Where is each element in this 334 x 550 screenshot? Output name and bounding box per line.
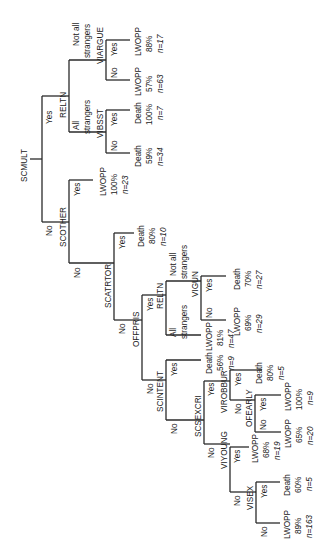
svg-text:59%: 59% [145,148,154,164]
decision-tree: SCMULT SCOTHER RELTN VIARGUE VIBSST SCAT… [0,0,334,550]
node-scmult: SCMULT [20,149,29,182]
leaf: LWOPP 89% n=163 [283,509,314,539]
svg-text:56%: 56% [216,355,225,371]
leaf: LWOPP 100% n=9 [284,381,315,411]
branch-yes: Yes [118,236,127,249]
node-labels: SCMULT SCOTHER RELTN VIARGUE VIBSST SCAT… [20,27,255,510]
svg-text:LWOPP: LWOPP [134,66,143,96]
leaf: Death 80% n=10 [137,225,168,247]
svg-text:n=19: n=19 [273,441,282,460]
branch-no: No [234,403,243,414]
svg-text:88%: 88% [145,36,154,52]
node-reltn-top: RELTN [59,92,68,118]
leaf: Death 60% n=5 [283,474,314,496]
node-reltn-mid: RELTN [156,283,165,309]
node-virobbur: VIROBBUR [220,370,229,413]
leaf: LWOPP 100% n=23 [99,166,130,196]
branch-yes: Yes [170,363,179,376]
svg-text:80%: 80% [266,365,275,381]
svg-text:LWOPP: LWOPP [284,418,293,448]
svg-text:68%: 68% [262,442,271,458]
branch-no: No [233,495,242,506]
leaf: Death 100% n=7 [134,102,165,125]
svg-text:100%: 100% [110,174,119,195]
branch-all-strangers: All [72,121,81,130]
leaf: LWOPP 57% n=63 [134,66,165,96]
leaf: LWOPP 69% n=29 [233,306,264,336]
node-visex: VISEX [246,485,255,510]
svg-text:n=9: n=9 [227,356,236,370]
svg-text:n=9: n=9 [306,391,315,405]
svg-text:n=20: n=20 [306,426,315,445]
svg-text:n=23: n=23 [121,175,130,194]
svg-text:89%: 89% [294,518,303,534]
leaf: Death 70% n=27 [233,268,264,290]
branch-yes: Yes [110,43,119,56]
svg-text:100%: 100% [145,104,154,125]
branch-not-all-strangers: Not all [72,23,81,46]
branch-no: No [118,323,127,334]
svg-text:57%: 57% [145,76,154,92]
svg-text:100%: 100% [295,389,304,410]
branch-yes: Yes [207,383,216,396]
branch-no: No [170,423,179,434]
branch-all-strangers: strangers [83,100,92,134]
svg-text:n=5: n=5 [305,477,314,491]
node-offpris: OFFPRIS [132,311,141,347]
branch-no: No [110,140,119,151]
svg-text:n=47: n=47 [227,329,236,348]
svg-text:Death: Death [283,474,292,496]
branch-yes: Yes [260,485,269,498]
branch-no: No [205,307,214,318]
leaf: LWOPP 88% n=17 [134,26,165,56]
branch-yes: Yes [45,111,54,124]
svg-text:Death: Death [205,352,214,374]
svg-text:n=7: n=7 [156,106,165,120]
svg-text:60%: 60% [294,477,303,493]
branch-all-strangers: strangers [180,305,189,339]
branch-yes: Yes [259,398,268,411]
node-scintent: SCINTENT [156,371,165,412]
svg-text:LWOPP: LWOPP [251,433,260,463]
leaf: Death 59% n=34 [134,145,165,167]
svg-text:Death: Death [134,145,143,167]
svg-text:n=63: n=63 [156,74,165,93]
node-scsexcri: SCSEXCRI [194,395,203,437]
branch-no: No [110,67,119,78]
svg-text:80%: 80% [148,228,157,244]
branch-no: No [207,447,216,458]
svg-text:n=27: n=27 [255,270,264,289]
svg-text:n=29: n=29 [255,314,264,333]
svg-text:Death: Death [134,102,143,124]
leaf: Death 80% n=5 [255,362,286,384]
svg-text:n=5: n=5 [277,366,286,380]
branch-yes: Yes [233,450,242,463]
branch-no: No [260,526,269,537]
svg-text:LWOPP: LWOPP [99,166,108,196]
branch-not-all-strangers: strangers [180,245,189,279]
branch-no: No [45,225,54,236]
svg-text:81%: 81% [216,330,225,346]
branch-not-all-strangers: Not all [169,253,178,276]
node-viargue: VIARGUE [96,27,105,64]
branch-no: No [73,267,82,278]
branch-all-strangers: All [169,328,178,337]
svg-text:LWOPP: LWOPP [284,381,293,411]
leaf: LWOPP 65% n=20 [284,418,315,448]
svg-text:n=17: n=17 [156,34,165,53]
branch-yes: Yes [205,279,214,292]
branch-not-all-strangers: strangers [83,24,92,58]
leaf: LWOPP 68% n=19 [251,433,282,463]
svg-text:LWOPP: LWOPP [205,321,214,351]
node-ofearly: OFEARLY [245,389,254,427]
branch-yes: Yes [146,298,155,311]
svg-text:n=163: n=163 [305,515,314,538]
svg-text:69%: 69% [244,315,253,331]
svg-text:LWOPP: LWOPP [134,26,143,56]
svg-text:LWOPP: LWOPP [283,509,292,539]
svg-text:70%: 70% [244,271,253,287]
leaf: LWOPP 81% n=47 [205,321,236,351]
node-scatrtor: SCATRTOR [104,264,113,308]
leaf: Death 56% n=9 [205,352,236,374]
branch-no: No [146,383,155,394]
